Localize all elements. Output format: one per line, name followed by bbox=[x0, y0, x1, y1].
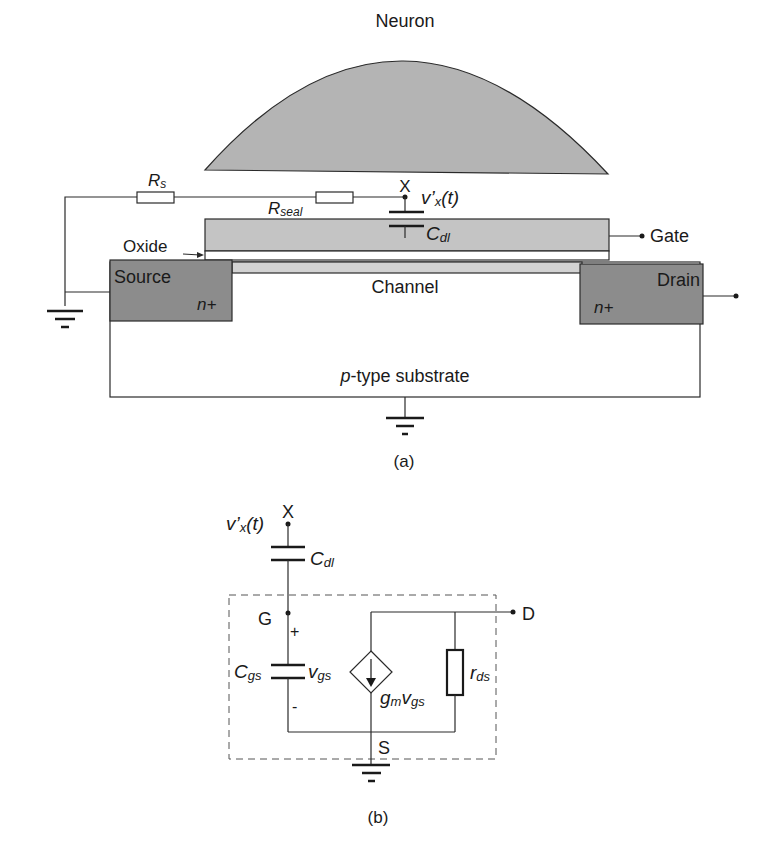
source-node-label: S bbox=[378, 738, 390, 758]
node-x-label: X bbox=[282, 502, 294, 522]
oxide-layer bbox=[205, 251, 609, 260]
vgs-label: vgs bbox=[308, 661, 332, 683]
source-doping: n+ bbox=[197, 295, 216, 314]
rds-label: rds bbox=[470, 662, 491, 684]
ground-icon bbox=[352, 765, 390, 781]
gate-terminal-dot bbox=[640, 234, 645, 239]
figure-a: Neuron Rs Rseal X v’x(t) Cdl Gate Oxide bbox=[47, 11, 739, 471]
voltage-label: v’x(t) bbox=[226, 513, 264, 535]
channel-label: Channel bbox=[371, 277, 438, 297]
caption-b: (b) bbox=[368, 808, 389, 827]
rseal-label: Rseal bbox=[268, 199, 303, 219]
voltage-label: v’x(t) bbox=[421, 187, 459, 209]
cgs-label: Cgs bbox=[234, 661, 262, 683]
gate-label: Gate bbox=[650, 226, 689, 246]
gate-electrode bbox=[205, 219, 609, 251]
rs-resistor bbox=[137, 192, 174, 203]
drain-doping: n+ bbox=[594, 298, 613, 317]
drain-node-dot bbox=[511, 610, 516, 615]
neuron-shape bbox=[205, 61, 608, 174]
caption-a: (a) bbox=[394, 452, 415, 471]
node-x-label: X bbox=[399, 177, 410, 196]
ground-icon bbox=[386, 418, 424, 434]
rds-resistor bbox=[447, 650, 463, 695]
neuron-label: Neuron bbox=[375, 11, 434, 31]
drain-terminal-dot bbox=[734, 294, 739, 299]
oxide-arrowhead bbox=[197, 252, 204, 258]
drain-node-label: D bbox=[522, 604, 535, 624]
channel-region bbox=[232, 262, 582, 273]
drain-label: Drain bbox=[657, 270, 700, 290]
source-label: Source bbox=[114, 267, 171, 287]
diagram-canvas: Neuron Rs Rseal X v’x(t) Cdl Gate Oxide bbox=[0, 0, 770, 857]
minus-sign: - bbox=[292, 698, 297, 715]
substrate-label: p-type substrate bbox=[339, 366, 469, 386]
oxide-label: Oxide bbox=[123, 237, 167, 256]
rs-label: Rs bbox=[148, 171, 166, 191]
plus-sign: + bbox=[290, 623, 299, 640]
cdl-label: Cdl bbox=[310, 548, 335, 570]
gm-vgs-label: gmvgs bbox=[380, 687, 425, 709]
figure-b: X v’x(t) Cdl G + Cgs vgs - D bbox=[226, 502, 535, 827]
ground-icon bbox=[47, 311, 83, 327]
gate-node-label: G bbox=[258, 609, 272, 629]
rseal-resistor bbox=[316, 192, 353, 203]
